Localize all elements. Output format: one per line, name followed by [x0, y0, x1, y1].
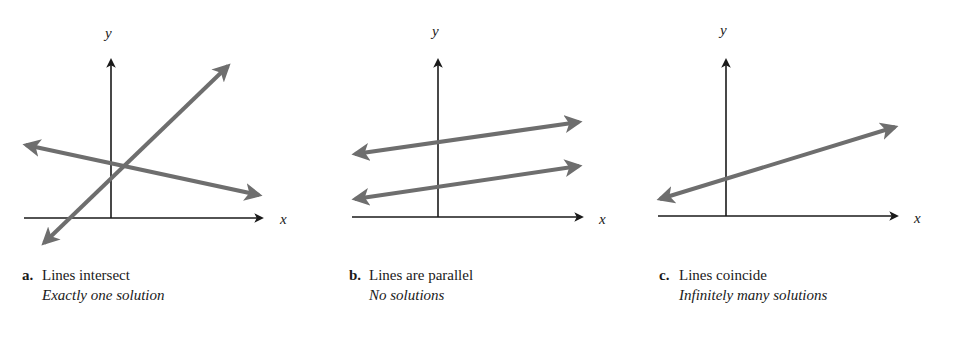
caption-b: b.Lines are parallel No solutions: [349, 265, 473, 305]
caption-title: Lines are parallel: [369, 267, 473, 283]
caption-title: Lines coincide: [679, 267, 767, 283]
caption-subtitle: Infinitely many solutions: [659, 285, 827, 305]
panel-a-graph: y x: [24, 25, 287, 243]
caption-letter: c.: [659, 265, 679, 285]
line-1: [355, 122, 579, 154]
panel-c-graph: y x: [658, 22, 921, 226]
caption-letter: b.: [349, 265, 369, 285]
y-axis-label: y: [430, 23, 439, 39]
line-2: [355, 166, 579, 199]
x-axis-label: x: [913, 210, 921, 226]
line-2: [26, 145, 259, 195]
caption-letter: a.: [22, 265, 42, 285]
caption-subtitle: No solutions: [349, 285, 473, 305]
y-axis-label: y: [718, 22, 727, 38]
caption-a: a.Lines intersect Exactly one solution: [22, 265, 164, 305]
caption-c: c.Lines coincide Infinitely many solutio…: [659, 265, 827, 305]
coincident-lines: [660, 127, 895, 199]
x-axis-label: x: [598, 211, 606, 227]
caption-title: Lines intersect: [42, 267, 130, 283]
caption-subtitle: Exactly one solution: [22, 285, 164, 305]
panel-b-graph: y x: [352, 23, 606, 227]
y-axis-label: y: [103, 25, 112, 41]
x-axis-label: x: [279, 211, 287, 227]
